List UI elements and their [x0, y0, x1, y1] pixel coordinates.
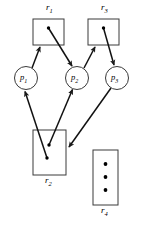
- resource-box-r3[interactable]: [88, 19, 119, 45]
- edge-p2-to-r3: [84, 47, 95, 68]
- resource-label-r2: r2: [45, 176, 52, 187]
- process-label-p1: p1: [20, 73, 27, 84]
- instance-dot-r3: [102, 26, 105, 29]
- instance-dot-r1: [47, 26, 50, 29]
- process-label-p3: p3: [111, 73, 118, 84]
- instance-dot-r4-b: [104, 175, 108, 179]
- instance-dot-r2-a: [47, 143, 50, 146]
- diagram-canvas: r1 r3 r2 r4 p1 p2 p3: [0, 0, 150, 231]
- resource-label-r3: r3: [101, 3, 108, 14]
- edge-p3-to-r2: [69, 88, 111, 147]
- resource-allocation-graph: [0, 0, 150, 231]
- instance-dot-r4-c: [104, 188, 108, 192]
- edge-p1-to-r1: [32, 47, 40, 68]
- resource-box-r1[interactable]: [33, 19, 64, 45]
- process-label-p2: p2: [71, 73, 78, 84]
- instance-dot-r4-a: [104, 162, 108, 166]
- instance-dot-r2-b: [45, 156, 48, 159]
- resource-label-r4: r4: [101, 206, 108, 217]
- resource-box-r2[interactable]: [33, 130, 66, 175]
- resource-label-r1: r1: [46, 3, 53, 14]
